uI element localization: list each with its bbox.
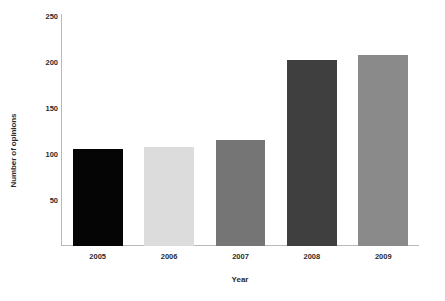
bar (73, 149, 123, 246)
bar (358, 55, 408, 246)
x-tick-label: 2005 (62, 252, 133, 261)
y-tick-label: 150 (32, 104, 58, 113)
x-tick-label: 2007 (205, 252, 276, 261)
bar (216, 140, 266, 246)
y-axis-title: Number of opinions (0, 0, 26, 301)
y-axis-tick-labels: 25020015010050 (28, 0, 58, 301)
bar (144, 147, 194, 246)
x-axis-tick-labels: 20052006200720082009 (62, 252, 419, 266)
y-tick-label: 250 (32, 12, 58, 21)
bar-chart: Number of opinions 25020015010050 200520… (0, 0, 445, 301)
y-tick-label: 200 (32, 58, 58, 67)
x-tick-label: 2008 (276, 252, 347, 261)
bars-layer (62, 16, 419, 246)
x-tick-label: 2009 (348, 252, 419, 261)
bar (287, 60, 337, 246)
x-tick-label: 2006 (133, 252, 204, 261)
x-axis-title: Year (60, 275, 420, 284)
y-tick-label: 50 (32, 196, 58, 205)
y-tick-label: 100 (32, 150, 58, 159)
